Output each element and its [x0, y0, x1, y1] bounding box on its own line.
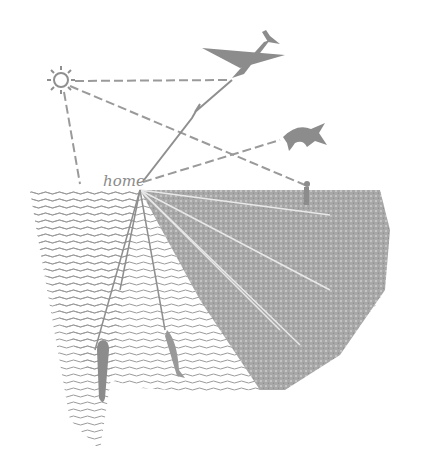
sun-icon — [47, 66, 75, 94]
home-label: home — [103, 172, 145, 190]
sight-lines — [64, 80, 305, 185]
navigation-illustration: home — [0, 0, 421, 458]
airplane-icon — [202, 30, 285, 78]
radio-signal — [144, 80, 232, 180]
bird-icon — [283, 123, 327, 151]
